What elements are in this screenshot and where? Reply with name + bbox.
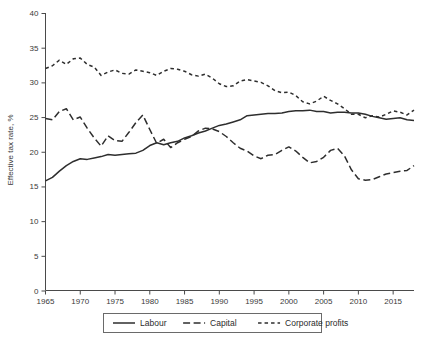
y-tick-label: 0 bbox=[34, 287, 39, 296]
series-line-capital bbox=[46, 109, 415, 180]
y-tick-label: 40 bbox=[30, 9, 39, 18]
y-tick-label: 35 bbox=[30, 44, 39, 53]
x-tick-label: 2010 bbox=[349, 297, 367, 306]
x-tick-label: 1995 bbox=[245, 297, 263, 306]
x-tick-label: 1970 bbox=[71, 297, 89, 306]
legend-label-corporate-profits: Corporate profits bbox=[285, 318, 348, 328]
y-axis-title: Effective tax rate, % bbox=[6, 115, 15, 186]
y-tick-label: 30 bbox=[30, 78, 39, 87]
chart-container: Effective tax rate, % 0510152025303540 1… bbox=[0, 0, 422, 342]
y-axis-tick-labels: 0510152025303540 bbox=[30, 9, 39, 296]
series-line-corporate-profits bbox=[46, 58, 415, 118]
y-tick-label: 20 bbox=[30, 148, 39, 157]
y-axis-tick-marks bbox=[42, 14, 46, 292]
y-axis-title-group: Effective tax rate, % bbox=[6, 115, 15, 186]
data-series-group bbox=[46, 58, 415, 181]
x-tick-label: 1965 bbox=[37, 297, 55, 306]
y-tick-label: 10 bbox=[30, 217, 39, 226]
x-tick-label: 1975 bbox=[106, 297, 124, 306]
x-tick-label: 1980 bbox=[141, 297, 159, 306]
x-tick-label: 2000 bbox=[280, 297, 298, 306]
x-tick-label: 2015 bbox=[384, 297, 402, 306]
legend-label-labour: Labour bbox=[140, 318, 167, 328]
y-tick-label: 25 bbox=[30, 113, 39, 122]
series-line-labour bbox=[46, 110, 415, 181]
legend-label-capital: Capital bbox=[210, 318, 237, 328]
x-tick-label: 2005 bbox=[315, 297, 333, 306]
x-axis-tick-labels: 1965197019751980198519901995200020052010… bbox=[37, 297, 403, 306]
x-tick-label: 1985 bbox=[176, 297, 194, 306]
x-tick-label: 1990 bbox=[210, 297, 228, 306]
tax-rate-line-chart: Effective tax rate, % 0510152025303540 1… bbox=[0, 0, 422, 342]
chart-legend: LabourCapitalCorporate profits bbox=[104, 314, 349, 333]
y-tick-label: 15 bbox=[30, 182, 39, 191]
y-tick-label: 5 bbox=[34, 252, 39, 261]
x-axis-tick-marks bbox=[46, 291, 394, 295]
